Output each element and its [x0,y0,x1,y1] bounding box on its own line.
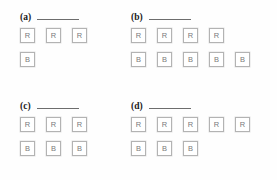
panel-b: (b) R R R R B B B B B [131,8,261,70]
token-letter: R [51,121,56,129]
token-box[interactable]: B [183,141,198,156]
token-box[interactable]: B [157,52,172,67]
token-letter: B [162,145,167,153]
worksheet-sheet: (a) R R R B (b) R R R R B B B B B [0,0,277,180]
token-letter: B [136,145,141,153]
token-letter: B [25,145,30,153]
token-letter: R [188,32,193,40]
panel-d-header: (d) [131,97,261,111]
token-box[interactable]: B [209,52,224,67]
token-box[interactable]: R [209,117,224,132]
panel-c-header: (c) [20,97,98,111]
token-letter: R [162,121,167,129]
token-box[interactable]: R [72,117,87,132]
token-letter: R [77,32,82,40]
token-box[interactable]: B [20,52,35,67]
token-letter: R [136,32,141,40]
panel-b-row-b: B B B B B [131,49,261,70]
panel-d-label: (d) [131,101,143,111]
token-letter: B [162,56,167,64]
token-box[interactable]: B [131,52,146,67]
token-box[interactable]: R [20,28,35,43]
panel-d-answer-blank[interactable] [149,108,191,109]
token-letter: B [214,56,219,64]
panel-d-row-b: B B B [131,138,261,159]
token-box[interactable]: B [72,141,87,156]
panel-a-header: (a) [20,8,98,22]
token-box[interactable]: R [72,28,87,43]
token-box[interactable]: R [46,28,61,43]
token-box[interactable]: B [157,141,172,156]
panel-b-header: (b) [131,8,261,22]
token-letter: B [240,56,245,64]
token-letter: B [188,56,193,64]
panel-c-label: (c) [20,101,31,111]
token-letter: B [25,56,30,64]
token-letter: R [240,121,245,129]
token-box[interactable]: R [131,117,146,132]
token-box[interactable]: R [235,117,250,132]
panel-c-answer-blank[interactable] [37,108,79,109]
token-box[interactable]: B [46,141,61,156]
panel-a-answer-blank[interactable] [37,19,79,20]
panel-a-label: (a) [20,12,31,22]
token-box[interactable]: R [157,28,172,43]
panel-c-row-b: B B B [20,138,98,159]
panel-b-answer-blank[interactable] [149,19,191,20]
token-letter: R [25,32,30,40]
panel-a: (a) R R R B [20,8,98,70]
panel-b-label: (b) [131,12,143,22]
token-box[interactable]: B [235,52,250,67]
token-letter: R [214,121,219,129]
token-box[interactable]: B [183,52,198,67]
panel-d: (d) R R R R R B B B [131,97,261,159]
token-box[interactable]: R [20,117,35,132]
token-box[interactable]: R [183,117,198,132]
panel-b-row-r: R R R R [131,25,261,46]
token-letter: R [188,121,193,129]
token-letter: R [214,32,219,40]
token-box[interactable]: B [131,141,146,156]
token-letter: B [51,145,56,153]
token-letter: B [188,145,193,153]
panel-c: (c) R R R B B B [20,97,98,159]
token-box[interactable]: R [209,28,224,43]
token-letter: R [51,32,56,40]
token-letter: B [136,56,141,64]
token-box[interactable]: B [20,141,35,156]
token-letter: R [25,121,30,129]
token-box[interactable]: R [46,117,61,132]
token-letter: B [77,145,82,153]
token-box[interactable]: R [131,28,146,43]
token-box[interactable]: R [183,28,198,43]
token-box[interactable]: R [157,117,172,132]
panel-c-row-r: R R R [20,114,98,135]
token-letter: R [162,32,167,40]
panel-a-row-b: B [20,49,98,70]
token-letter: R [136,121,141,129]
token-letter: R [77,121,82,129]
panel-d-row-r: R R R R R [131,114,261,135]
panel-a-row-r: R R R [20,25,98,46]
